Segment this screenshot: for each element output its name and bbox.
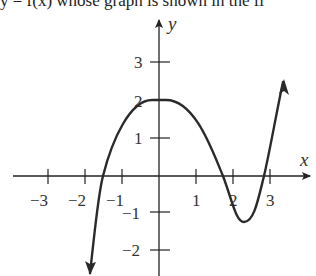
x-tick-label: −2: [68, 191, 86, 210]
y-axis-label: y: [166, 13, 177, 34]
x-tick-label: 1: [192, 191, 201, 210]
x-axis-label: x: [299, 149, 309, 170]
function-graph: −3 −2 −1 1 2 3 3 2 1 −1 −2 x y: [0, 0, 316, 276]
y-tick-label: 3: [134, 53, 143, 72]
y-tick-label: 1: [134, 129, 143, 148]
curve-arrow-up-icon: [279, 79, 289, 95]
y-tick-label: −1: [122, 204, 140, 223]
x-tick-label: 3: [266, 191, 275, 210]
function-curve: [90, 82, 283, 273]
y-tick-label: −2: [122, 241, 140, 260]
y-ticks: [150, 62, 170, 250]
x-tick-label: −3: [30, 191, 48, 210]
